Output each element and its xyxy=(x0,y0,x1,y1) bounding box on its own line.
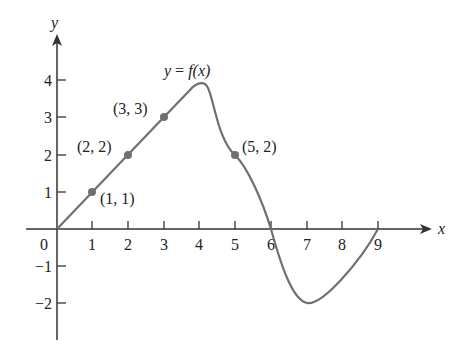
x-tick-label: 3 xyxy=(160,236,168,253)
x-tick-label: 4 xyxy=(195,236,203,253)
x-tick-labels: 0 1 2 3 4 5 6 7 8 9 xyxy=(40,236,382,253)
point-label-5-2: (5, 2) xyxy=(242,138,277,156)
origin-label: 0 xyxy=(40,236,48,253)
x-tick-label: 9 xyxy=(374,236,382,253)
x-tick-label: 7 xyxy=(303,236,311,253)
y-tick-labels: 4 3 2 1 −1 −2 xyxy=(35,72,52,312)
y-tick-label: 1 xyxy=(44,184,52,201)
point-1-1 xyxy=(88,188,96,196)
y-tick-label: 4 xyxy=(44,72,52,89)
x-tick-label: 8 xyxy=(338,236,346,253)
y-tick-label: 3 xyxy=(44,109,52,126)
y-tick-label: 2 xyxy=(44,147,52,164)
point-2-2 xyxy=(124,151,132,159)
point-label-2-2: (2, 2) xyxy=(77,138,112,156)
x-tick-label: 2 xyxy=(124,236,132,253)
x-ticks xyxy=(92,221,378,229)
point-3-3 xyxy=(160,113,168,121)
y-tick-label: −2 xyxy=(35,295,52,312)
function-graph: x y 0 1 2 3 4 5 6 7 8 9 4 3 2 1 −1 xyxy=(0,0,467,351)
point-label-3-3: (3, 3) xyxy=(113,100,148,118)
curve-label: y = f(x) xyxy=(162,62,210,80)
x-axis-label: x xyxy=(437,220,445,237)
point-label-1-1: (1, 1) xyxy=(100,190,135,208)
y-ticks xyxy=(57,80,66,303)
point-5-2 xyxy=(231,151,239,159)
x-tick-label: 5 xyxy=(231,236,239,253)
y-tick-label: −1 xyxy=(35,258,52,275)
y-axis-label: y xyxy=(49,14,59,32)
x-tick-label: 1 xyxy=(88,236,96,253)
